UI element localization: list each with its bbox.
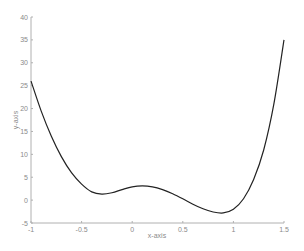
x-axis-title: x-axis: [148, 232, 167, 239]
y-tick-label: 5: [24, 174, 28, 181]
y-axis-title: y-axis: [12, 110, 20, 129]
series-line: [31, 40, 284, 213]
x-tick-label: 1.5: [279, 226, 289, 233]
y-tick-label: 30: [20, 59, 28, 66]
y-tick-label: 0: [24, 197, 28, 204]
y-tick-label: 20: [20, 105, 28, 112]
line-chart: -50510152025303540-1-0.500.511.5 x-axis …: [0, 0, 304, 251]
x-tick-label: 1: [231, 226, 235, 233]
x-tick-label: 0.5: [178, 226, 188, 233]
axes: -50510152025303540-1-0.500.511.5: [20, 14, 289, 234]
y-tick-label: 15: [20, 128, 28, 135]
x-tick-label: 0: [130, 226, 134, 233]
y-tick-label: 35: [20, 36, 28, 43]
y-tick-label: 10: [20, 151, 28, 158]
x-tick-label: -0.5: [76, 226, 88, 233]
y-tick-label: 25: [20, 82, 28, 89]
x-tick-label: -1: [28, 226, 34, 233]
y-tick-label: 40: [20, 14, 28, 21]
plot-area: [31, 40, 284, 213]
